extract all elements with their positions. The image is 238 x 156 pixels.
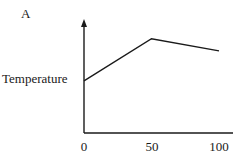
x-tick-100: 100 <box>209 139 229 155</box>
line-chart <box>0 0 238 156</box>
y-axis-arrow-icon <box>81 19 87 27</box>
x-tick-0: 0 <box>81 139 88 155</box>
x-tick-50: 50 <box>146 139 159 155</box>
temperature-line <box>84 39 219 81</box>
